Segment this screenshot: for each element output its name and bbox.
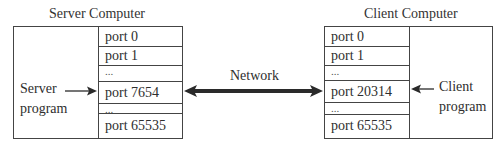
server-program-arrow-icon: [65, 87, 97, 96]
network-bidirectional-arrow-icon: [184, 85, 323, 97]
client-program-arrow-icon: [411, 85, 434, 94]
arrows-layer: [0, 0, 503, 143]
